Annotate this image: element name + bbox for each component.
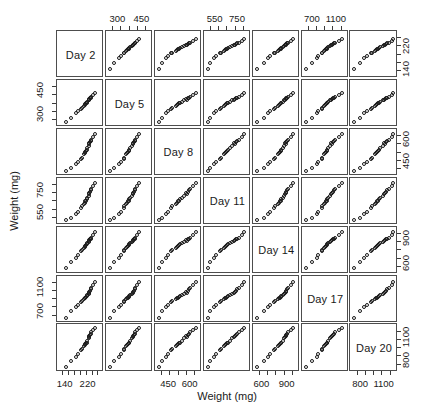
data-point — [340, 91, 344, 95]
axis-tick — [308, 26, 309, 30]
data-point — [277, 151, 281, 155]
matrix-scatter-panel-r1c7 — [349, 30, 396, 77]
axis-tick-label: 600 — [399, 131, 410, 147]
data-point — [93, 326, 97, 330]
data-point — [206, 316, 210, 320]
data-point — [112, 359, 116, 363]
data-point — [223, 296, 227, 300]
data-point — [194, 91, 198, 95]
matrix-diagonal-panel-7: Day 20 — [349, 323, 396, 370]
data-point — [320, 249, 324, 253]
axis-tick — [52, 282, 56, 283]
matrix-scatter-panel-r7c3 — [154, 323, 201, 370]
axis-tick — [316, 26, 317, 30]
axis-tick — [86, 371, 87, 375]
data-point — [320, 51, 324, 55]
data-point — [235, 237, 239, 241]
data-point — [89, 96, 93, 100]
data-point — [137, 132, 141, 136]
matrix-scatter-panel-r7c6 — [301, 323, 348, 370]
matrix-scatter-panel-r1c6 — [301, 30, 348, 77]
data-point — [340, 326, 344, 330]
axis-tick — [341, 26, 342, 30]
data-point — [74, 305, 78, 309]
axis-tick — [52, 315, 56, 316]
data-point — [133, 332, 137, 336]
data-point — [69, 309, 73, 313]
data-point — [283, 291, 287, 295]
axis-tick-label: 140 — [57, 378, 73, 389]
axis-tick-label: 600 — [399, 255, 410, 271]
matrix-diagonal-panel-1: Day 2 — [56, 30, 103, 77]
data-point — [362, 212, 366, 216]
data-point — [266, 305, 270, 309]
data-point — [362, 305, 366, 309]
matrix-scatter-panel-r5c6 — [301, 226, 348, 273]
data-point — [315, 355, 319, 359]
axis-tick — [68, 371, 69, 375]
axis-tick-label: 450 — [34, 82, 45, 98]
data-point — [108, 365, 112, 369]
data-point — [206, 120, 210, 124]
data-point — [164, 111, 168, 115]
data-point — [69, 216, 73, 220]
data-point — [223, 343, 227, 347]
data-point — [117, 305, 121, 309]
data-point — [358, 216, 362, 220]
data-point — [266, 355, 270, 359]
data-point — [323, 48, 327, 52]
y-axis-title: Weight (mg) — [8, 171, 20, 231]
data-point — [369, 300, 373, 304]
data-point — [69, 260, 73, 264]
matrix-scatter-panel-r3c2 — [105, 128, 152, 175]
data-point — [304, 365, 308, 369]
data-point — [185, 291, 189, 295]
data-point — [262, 216, 266, 220]
axis-tick — [52, 192, 56, 193]
data-point — [133, 237, 137, 241]
axis-tick — [52, 184, 56, 185]
matrix-scatter-panel-r2c5 — [252, 79, 299, 126]
data-point — [285, 139, 289, 143]
data-point — [93, 91, 97, 95]
matrix-scatter-panel-r1c2 — [105, 30, 152, 77]
axis-tick — [373, 371, 374, 375]
axis-tick — [210, 26, 211, 30]
data-point — [242, 280, 246, 284]
data-point — [262, 116, 266, 120]
axis-tick — [52, 86, 56, 87]
data-point — [122, 300, 126, 304]
data-point — [329, 335, 333, 339]
data-point — [242, 132, 246, 136]
data-point — [64, 316, 68, 320]
data-point — [340, 37, 344, 41]
axis-tick — [120, 26, 121, 30]
data-point — [112, 61, 116, 65]
axis-tick — [226, 26, 227, 30]
axis-tick — [275, 371, 276, 375]
data-point — [212, 162, 216, 166]
data-point — [160, 116, 164, 120]
data-point — [391, 230, 395, 234]
data-point — [310, 116, 314, 120]
data-point — [218, 107, 222, 111]
axis-tick-label: 140 — [399, 61, 410, 77]
data-point — [117, 212, 121, 216]
data-point — [79, 157, 83, 161]
matrix-scatter-panel-r6c5 — [252, 275, 299, 322]
data-point — [125, 48, 129, 52]
data-point — [323, 245, 327, 249]
data-point — [169, 300, 173, 304]
data-point — [175, 245, 179, 249]
data-point — [255, 316, 259, 320]
axis-tick — [52, 200, 56, 201]
matrix-scatter-panel-r2c4 — [203, 79, 250, 126]
data-point — [117, 162, 121, 166]
data-point — [108, 218, 112, 222]
matrix-scatter-panel-r7c4 — [203, 323, 250, 370]
data-point — [277, 48, 281, 52]
axis-tick — [62, 371, 63, 375]
data-point — [235, 139, 239, 143]
axis-tick-label: 750 — [229, 13, 245, 24]
matrix-scatter-panel-r6c3 — [154, 275, 201, 322]
